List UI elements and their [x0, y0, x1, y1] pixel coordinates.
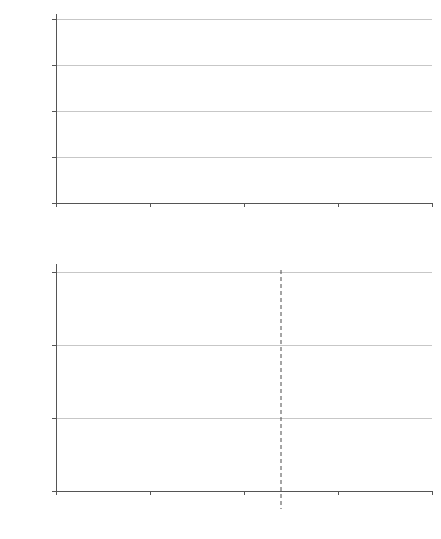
gridlines-refugees [56, 19, 432, 157]
y-ticks-refugees [52, 19, 56, 203]
figure-page [0, 0, 441, 539]
x-ticks-afd [56, 491, 432, 495]
x-ticks-refugees [56, 203, 432, 207]
gridlines-afd [56, 272, 432, 418]
chart-refugees-svg [0, 0, 441, 250]
chart-afd [0, 250, 441, 539]
chart-refugees [0, 0, 441, 250]
y-ticks-afd [52, 272, 56, 491]
chart-afd-svg [0, 250, 441, 539]
